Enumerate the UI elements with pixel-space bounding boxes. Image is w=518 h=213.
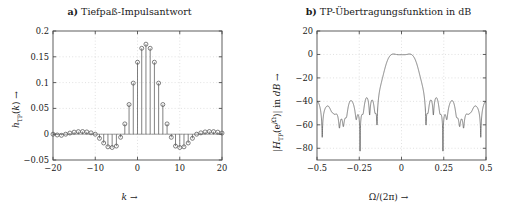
panel-b-xticklabel: 0 <box>399 163 404 173</box>
panel-b-yticklabel: −20 <box>295 73 313 83</box>
panel-a-ylabel: hTP(k) → <box>11 91 23 128</box>
panel-a-yticklabel: 0.15 <box>31 52 49 62</box>
panel-b-yticklabel: −80 <box>295 143 313 153</box>
panel-b-yticklabel: 20 <box>302 26 313 36</box>
panel-b-transfer-function: b) TP-Übertragungsfunktion in dB −0.5−0.… <box>259 0 518 213</box>
panel-b-yticklabel: −40 <box>295 96 313 106</box>
panel-a-impulse-response: a) Tiefpaß-Impulsantwort −20−1001020−0.0… <box>0 0 259 213</box>
panel-b-xlabel: Ω/(2π) → <box>259 192 518 202</box>
panel-a-yticklabel: 0.05 <box>31 103 49 113</box>
panel-a-xticklabel: 20 <box>217 163 228 173</box>
figure-container: a) Tiefpaß-Impulsantwort −20−1001020−0.0… <box>0 0 518 213</box>
panel-a-xlabel: k → <box>0 192 259 202</box>
panel-a-stems <box>51 42 224 149</box>
panel-a-xticklabel: 10 <box>174 163 185 173</box>
panel-a-yticklabel: 0.1 <box>36 78 49 88</box>
panel-b-xticklabel: −0.5 <box>307 163 327 173</box>
panel-a-xticklabel: −10 <box>86 163 104 173</box>
panel-b-yticklabel: −60 <box>295 120 313 130</box>
panel-a-xticklabel: 0 <box>135 163 140 173</box>
panel-a-yticklabel: 0 <box>44 129 49 139</box>
panel-a-yticklabel: −0.05 <box>24 155 49 165</box>
panel-b-xticklabel: 0.25 <box>435 163 453 173</box>
panel-b-xticklabel: 0.5 <box>479 163 492 173</box>
panel-b-plot: −0.5−0.2500.250.5−80−60−40−20020 <box>259 0 518 213</box>
panel-a-yticklabel: 0.2 <box>36 26 49 36</box>
panel-b-xticklabel: −0.25 <box>347 163 372 173</box>
panel-a-plot: −20−1001020−0.0500.050.10.150.2 <box>0 0 259 213</box>
panel-b-yticklabel: 0 <box>308 49 313 59</box>
panel-b-ylabel: |HTP(ejΩ)| in dB → <box>270 73 284 152</box>
